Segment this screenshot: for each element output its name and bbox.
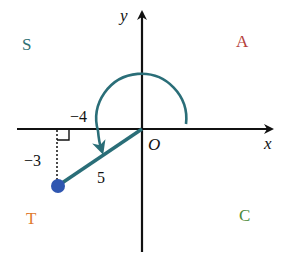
quadrant-a-label: A xyxy=(236,32,249,51)
y-axis-label: y xyxy=(118,6,128,25)
quadrant-s-label: S xyxy=(22,35,31,54)
x-leg-label: −4 xyxy=(70,108,87,125)
origin-label: O xyxy=(148,135,160,154)
point-p xyxy=(51,179,65,193)
y-leg-label: −3 xyxy=(24,152,41,169)
hypotenuse-label: 5 xyxy=(97,169,105,186)
cast-diagram: y x O S A T C −4 −3 5 xyxy=(0,0,286,256)
x-axis-label: x xyxy=(263,134,272,153)
quadrant-t-label: T xyxy=(26,209,37,228)
quadrant-c-label: C xyxy=(239,206,250,225)
right-angle-marker xyxy=(57,129,69,140)
